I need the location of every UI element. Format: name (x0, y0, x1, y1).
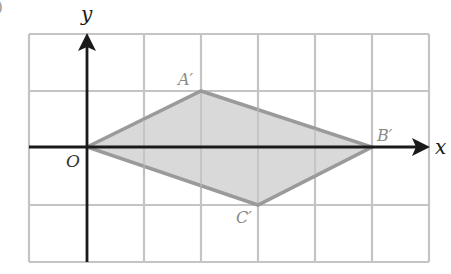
corner-mark: ) (0, 0, 3, 16)
coordinate-figure: ) y x O A′ B′ C′ (0, 0, 451, 274)
axes (29, 33, 430, 262)
vertex-label-a: A′ (178, 70, 193, 89)
y-axis-label: y (81, 2, 92, 26)
vertex-label-b: B′ (377, 126, 392, 145)
x-axis-label: x (435, 135, 446, 159)
vertex-label-c: C′ (236, 208, 252, 227)
origin-label: O (66, 151, 80, 171)
